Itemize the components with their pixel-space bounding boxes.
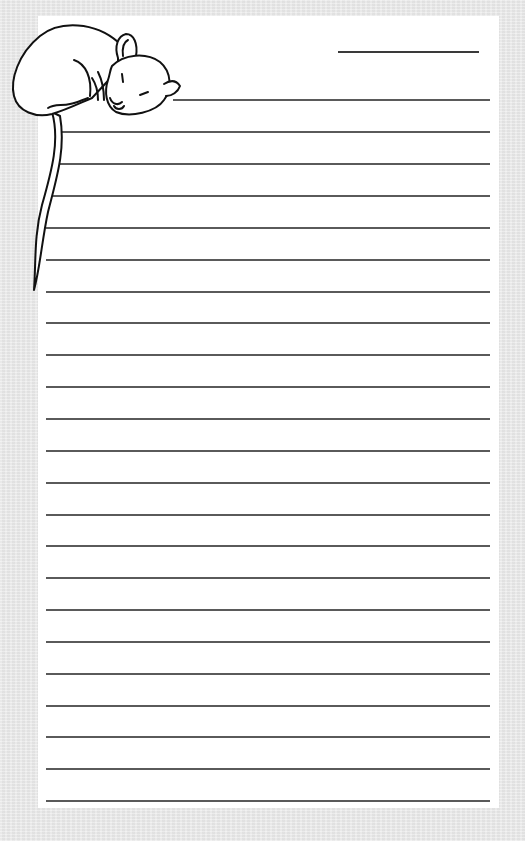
- writing-line: [46, 577, 490, 579]
- writing-line: [46, 609, 490, 611]
- writing-line: [46, 322, 490, 324]
- writing-line: [46, 354, 490, 356]
- writing-line: [46, 386, 490, 388]
- writing-line: [173, 99, 490, 101]
- writing-line: [46, 545, 490, 547]
- writing-line: [46, 736, 490, 738]
- title-line: [338, 51, 479, 53]
- sleeping-mouse-icon: [0, 0, 200, 300]
- writing-line: [46, 768, 490, 770]
- writing-line: [46, 482, 490, 484]
- writing-line: [46, 450, 490, 452]
- writing-line: [46, 673, 490, 675]
- writing-line: [46, 514, 490, 516]
- writing-line: [46, 641, 490, 643]
- writing-line: [46, 800, 490, 802]
- writing-line: [46, 705, 490, 707]
- writing-line: [46, 418, 490, 420]
